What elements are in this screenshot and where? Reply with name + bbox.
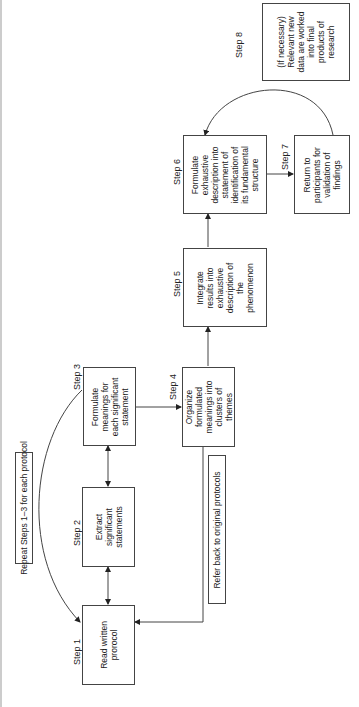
step-8-text: (If necessary) Relevant new data are wor… bbox=[276, 12, 336, 73]
step-1-label: Step 1 bbox=[72, 639, 82, 665]
step-6-label: Step 6 bbox=[172, 159, 182, 185]
step-4-text: Organize formulated meanings into cluste… bbox=[184, 381, 234, 434]
step-7-box: Return to participants for validation of… bbox=[294, 135, 350, 214]
refer-back-note-text: Refer back to original protocols bbox=[212, 471, 222, 588]
refer-back-note-box: Refer back to original protocols bbox=[208, 455, 226, 604]
step-3-label: Step 3 bbox=[72, 364, 82, 390]
step-5-box: Integrate results into exhaustive descri… bbox=[183, 248, 267, 327]
connector-lines bbox=[0, 0, 359, 707]
step-2-label: Step 2 bbox=[72, 520, 82, 546]
step-1-text: Read written prorocol bbox=[99, 621, 119, 669]
step-3-text: Formulate meanings for each significant … bbox=[90, 377, 130, 436]
step-2-text: Extract significant statements bbox=[94, 506, 124, 548]
step-8-label: Step 8 bbox=[234, 32, 244, 58]
step-2-box: Extract significant statements bbox=[82, 487, 135, 567]
step-4-box: Organize formulated meanings into cluste… bbox=[182, 367, 235, 447]
step-7-label: Step 7 bbox=[280, 144, 290, 170]
step-3-box: Formulate meanings for each significant … bbox=[83, 367, 136, 446]
step-7-text: Return to participants for validation of… bbox=[302, 147, 342, 203]
step-5-text: Integrate results into exhaustive descri… bbox=[195, 262, 255, 313]
step-8-box: (If necessary) Relevant new data are wor… bbox=[262, 3, 350, 81]
repeat-note-box: Repeat Steps 1–3 for each protocol bbox=[15, 452, 33, 564]
step-5-label: Step 5 bbox=[172, 271, 182, 297]
repeat-note-text: Repeat Steps 1–3 for each protocol bbox=[19, 441, 29, 575]
step-6-text: Formulate exhaustive description into st… bbox=[190, 146, 260, 204]
step-4-label: Step 4 bbox=[168, 374, 178, 400]
step-1-box: Read written prorocol bbox=[82, 605, 135, 685]
step-6-box: Formulate exhaustive description into st… bbox=[183, 135, 267, 214]
